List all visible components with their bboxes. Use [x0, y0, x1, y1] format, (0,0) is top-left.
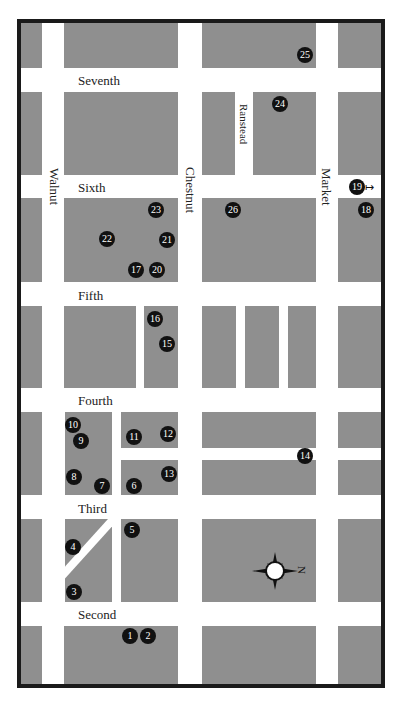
- street-label-walnut: Walnut: [47, 168, 61, 205]
- location-marker-3[interactable]: 3: [66, 584, 82, 600]
- city-block: [288, 306, 316, 388]
- street-label-third: Third: [78, 502, 107, 516]
- street-label-second: Second: [78, 608, 116, 622]
- city-block: [202, 412, 316, 448]
- location-marker-24[interactable]: 24: [272, 96, 288, 112]
- street-label-fifth: Fifth: [78, 289, 103, 303]
- city-block: [202, 198, 316, 282]
- city-block: [21, 23, 42, 68]
- location-marker-1[interactable]: 1: [122, 628, 138, 644]
- location-marker-7[interactable]: 7: [94, 478, 110, 494]
- city-block: [202, 306, 236, 388]
- location-marker-4[interactable]: 4: [65, 539, 81, 555]
- city-block: [202, 460, 316, 495]
- location-marker-19[interactable]: 19: [349, 179, 365, 195]
- city-block: [202, 92, 235, 175]
- city-block: [245, 306, 279, 388]
- compass-north-label: N: [296, 566, 308, 574]
- street-label-seventh: Seventh: [78, 74, 120, 88]
- location-marker-20[interactable]: 20: [149, 262, 165, 278]
- street-label-sixth: Sixth: [78, 181, 105, 195]
- location-marker-21[interactable]: 21: [159, 232, 175, 248]
- city-block: [64, 306, 136, 388]
- city-block: [21, 306, 42, 388]
- location-marker-6[interactable]: 6: [126, 478, 142, 494]
- city-block: [338, 626, 381, 684]
- location-marker-25[interactable]: 25: [297, 47, 313, 63]
- city-block: [338, 92, 381, 175]
- location-marker-26[interactable]: 26: [225, 202, 241, 218]
- city-block: [338, 519, 381, 602]
- street-label-market: Market: [319, 168, 333, 206]
- location-marker-13[interactable]: 13: [161, 466, 177, 482]
- city-block: [21, 626, 42, 684]
- location-marker-9[interactable]: 9: [73, 433, 89, 449]
- arrow-right-icon: ↦: [365, 181, 374, 193]
- location-marker-14[interactable]: 14: [297, 448, 313, 464]
- city-block: [202, 23, 316, 68]
- city-block: [21, 412, 42, 495]
- location-marker-15[interactable]: 15: [159, 336, 175, 352]
- location-marker-2[interactable]: 2: [140, 628, 156, 644]
- city-block: [64, 23, 178, 68]
- city-block: [338, 23, 381, 68]
- city-block: [64, 626, 178, 684]
- street-label-chestnut: Chestnut: [183, 167, 197, 213]
- location-marker-5[interactable]: 5: [124, 522, 140, 538]
- city-block: [338, 412, 381, 448]
- location-marker-22[interactable]: 22: [99, 231, 115, 247]
- city-block: [21, 92, 42, 175]
- location-marker-11[interactable]: 11: [126, 429, 142, 445]
- city-block: [21, 519, 42, 602]
- location-marker-10[interactable]: 10: [65, 417, 81, 433]
- city-block: [21, 198, 42, 282]
- street-label-fourth: Fourth: [78, 394, 113, 408]
- location-marker-23[interactable]: 23: [148, 202, 164, 218]
- location-marker-12[interactable]: 12: [160, 426, 176, 442]
- city-block: [202, 626, 316, 684]
- location-marker-8[interactable]: 8: [66, 469, 82, 485]
- location-marker-16[interactable]: 16: [147, 311, 163, 327]
- location-marker-17[interactable]: 17: [128, 262, 144, 278]
- city-block: [338, 460, 381, 495]
- city-block: [338, 306, 381, 388]
- city-block: [64, 92, 178, 175]
- location-marker-18[interactable]: 18: [358, 202, 374, 218]
- street-label-ranstead: Ranstead: [237, 104, 251, 144]
